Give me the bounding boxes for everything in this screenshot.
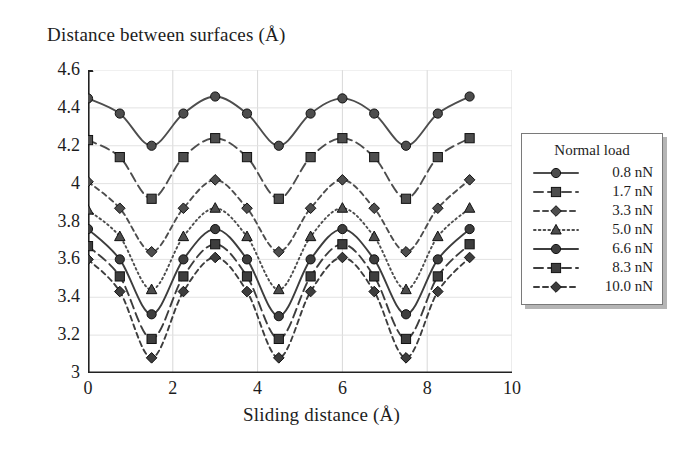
legend-entry-label: 10.0 nN — [584, 278, 656, 295]
data-point-circle — [115, 109, 124, 118]
data-point-circle — [211, 224, 220, 233]
data-point-square — [551, 263, 560, 272]
y-tick-label: 3.8 — [34, 211, 80, 232]
data-point-diamond — [274, 353, 285, 364]
data-point-circle — [242, 109, 251, 118]
data-point-diamond — [401, 353, 412, 364]
data-point-square — [306, 153, 315, 162]
legend-entry[interactable]: 1.7 nN — [528, 182, 656, 201]
chart-figure: Distance between surfaces (Å) 33.23.43.6… — [0, 0, 681, 451]
data-point-circle — [370, 109, 379, 118]
data-point-square — [465, 134, 474, 143]
y-axis-arrow — [88, 70, 94, 72]
series-0-8-nn — [88, 92, 474, 150]
legend-sample-diamond-icon — [528, 202, 584, 220]
data-point-diamond — [433, 286, 444, 297]
legend-entry-label: 0.8 nN — [584, 164, 656, 181]
plot-area — [88, 70, 512, 373]
y-tick-label: 3.6 — [34, 248, 80, 269]
data-point-circle — [274, 312, 283, 321]
legend-entry-label: 1.7 nN — [584, 183, 656, 200]
data-point-square — [306, 272, 315, 281]
data-point-circle — [274, 141, 283, 150]
data-point-square — [401, 194, 410, 203]
legend-sample-triangle-icon — [528, 221, 584, 239]
data-point-square — [433, 153, 442, 162]
x-tick-label: 4 — [243, 378, 273, 399]
x-tick-label: 2 — [158, 378, 188, 399]
data-point-triangle — [305, 231, 315, 241]
y-axis-title: Distance between surfaces (Å) — [47, 24, 285, 46]
data-point-diamond — [551, 281, 562, 292]
data-point-triangle — [337, 203, 347, 213]
data-point-square — [338, 134, 347, 143]
legend-entry[interactable]: 0.8 nN — [528, 163, 656, 182]
series-3-3-nn — [88, 175, 475, 258]
legend-entry-label: 3.3 nN — [584, 202, 656, 219]
data-point-square — [88, 242, 93, 251]
series-line — [88, 97, 470, 146]
data-point-circle — [211, 92, 220, 101]
data-point-square — [370, 272, 379, 281]
x-axis-title: Sliding distance (Å) — [243, 404, 400, 426]
legend-entry[interactable]: 8.3 nN — [528, 258, 656, 277]
legend-title: Normal load — [528, 142, 656, 159]
legend-entry-label: 6.6 nN — [584, 240, 656, 257]
series-10-0-nn — [88, 252, 475, 363]
series-5-0-nn — [88, 203, 475, 294]
legend-sample-square-icon — [528, 183, 584, 201]
data-point-circle — [338, 94, 347, 103]
legend-sample-square-icon — [528, 259, 584, 277]
data-point-diamond — [369, 286, 380, 297]
legend-sample-diamond-icon — [528, 278, 584, 296]
x-tick-label: 10 — [497, 378, 527, 399]
data-point-diamond — [178, 286, 189, 297]
data-point-square — [179, 153, 188, 162]
data-point-diamond — [464, 252, 475, 263]
chart-canvas — [88, 70, 512, 373]
legend-entry[interactable]: 10.0 nN — [528, 277, 656, 296]
series-line — [88, 229, 470, 316]
data-point-diamond — [305, 286, 316, 297]
data-point-square — [370, 153, 379, 162]
data-point-diamond — [401, 247, 412, 258]
legend-entry[interactable]: 5.0 nN — [528, 220, 656, 239]
legend-entries: 0.8 nN1.7 nN3.3 nN5.0 nN6.6 nN8.3 nN10.0… — [528, 163, 656, 296]
legend-entry[interactable]: 6.6 nN — [528, 239, 656, 258]
data-point-square — [211, 240, 220, 249]
data-point-square — [179, 272, 188, 281]
data-point-circle — [551, 168, 560, 177]
data-point-circle — [465, 92, 474, 101]
y-tick-label: 3.4 — [34, 286, 80, 307]
data-point-circle — [88, 224, 93, 233]
data-point-square — [242, 272, 251, 281]
data-point-circle — [242, 255, 251, 264]
y-tick-label: 4.4 — [34, 97, 80, 118]
data-point-circle — [306, 255, 315, 264]
data-point-square — [338, 240, 347, 249]
data-point-square — [115, 272, 124, 281]
data-point-diamond — [88, 254, 93, 265]
data-point-square — [274, 334, 283, 343]
data-point-square — [211, 134, 220, 143]
data-point-circle — [338, 224, 347, 233]
legend-sample-circle-icon — [528, 164, 584, 182]
x-tick-label: 8 — [412, 378, 442, 399]
data-point-circle — [401, 141, 410, 150]
data-point-circle — [179, 109, 188, 118]
data-point-square — [274, 194, 283, 203]
x-tick-label: 0 — [73, 378, 103, 399]
data-point-square — [147, 334, 156, 343]
legend-entry-label: 8.3 nN — [584, 259, 656, 276]
y-tick-label: 4.6 — [34, 59, 80, 80]
data-point-circle — [88, 94, 93, 103]
series-line — [88, 180, 470, 252]
data-point-square — [433, 272, 442, 281]
data-point-diamond — [146, 247, 157, 258]
legend-entry[interactable]: 3.3 nN — [528, 201, 656, 220]
data-point-circle — [433, 109, 442, 118]
data-point-diamond — [88, 176, 93, 187]
data-point-diamond — [242, 286, 253, 297]
y-tick-label: 4.2 — [34, 135, 80, 156]
legend-sample-circle-icon — [528, 240, 584, 258]
